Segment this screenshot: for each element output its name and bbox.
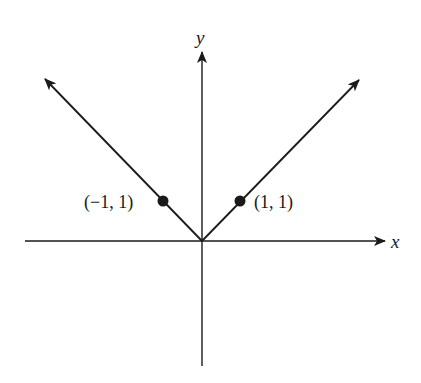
point-neg1-1-label: (−1, 1) (84, 192, 133, 213)
point-neg1-1 (158, 196, 169, 207)
graph-right-branch (202, 80, 359, 241)
x-axis-label: x (390, 231, 400, 252)
graph-canvas: x y (−1, 1) (1, 1) (0, 0, 421, 383)
graph-left-branch (45, 79, 202, 241)
y-axis-label: y (194, 27, 205, 48)
point-1-1-label: (1, 1) (254, 192, 293, 213)
point-1-1 (235, 196, 246, 207)
